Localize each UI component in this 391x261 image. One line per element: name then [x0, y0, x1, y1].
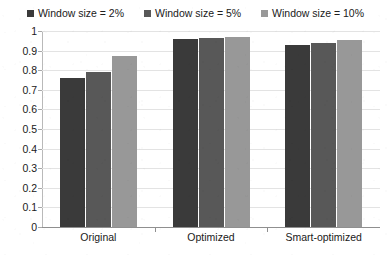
bar-group-smart-optimized [285, 30, 362, 227]
y-axis-tick-label: 0.1 [22, 202, 37, 213]
y-axis-tick [38, 31, 42, 32]
y-axis-tick-label: 0.7 [22, 85, 37, 96]
chart-legend: Window size = 2% Window size = 5% Window… [0, 4, 391, 22]
x-axis-tick [267, 228, 268, 232]
x-axis-label-optimized: Optimized [187, 232, 234, 243]
legend-swatch-window-size-10 [261, 10, 268, 17]
bar-group-optimized [173, 30, 250, 227]
y-axis-tick [38, 188, 42, 189]
gridline [42, 227, 380, 228]
y-axis-tick [38, 149, 42, 150]
y-axis-tick [38, 109, 42, 110]
y-axis-tick [38, 90, 42, 91]
bar-chart: Window size = 2% Window size = 5% Window… [0, 0, 391, 261]
legend-label-window-size-10: Window size = 10% [272, 8, 364, 19]
y-axis-tick-label: 0.5 [22, 124, 37, 135]
bar-original-series-2 [86, 72, 111, 227]
bar-optimized-series-2 [199, 38, 224, 227]
bar-original-series-3 [112, 56, 137, 227]
plot-area: 00.10.20.30.40.50.60.70.80.91 [42, 31, 380, 228]
y-axis-tick-label: 0.3 [22, 163, 37, 174]
y-axis-tick [38, 51, 42, 52]
bar-optimized-series-1 [173, 39, 198, 227]
y-axis-tick-label: 0.2 [22, 183, 37, 194]
legend-item-window-size-10: Window size = 10% [261, 8, 364, 19]
legend-swatch-window-size-2 [27, 10, 34, 17]
bar-smart-optimized-series-3 [337, 40, 362, 227]
x-axis-label-smart-optimized: Smart-optimized [285, 232, 361, 243]
y-axis-tick-label: 0.4 [22, 143, 37, 154]
y-axis-tick-label: 0 [31, 222, 37, 233]
bar-optimized-series-3 [225, 37, 250, 227]
y-axis-tick-label: 0.9 [22, 45, 37, 56]
x-axis-tick [155, 228, 156, 232]
legend-label-window-size-5: Window size = 5% [155, 8, 241, 19]
y-axis-tick [38, 70, 42, 71]
bar-smart-optimized-series-1 [285, 45, 310, 227]
y-axis-tick [38, 168, 42, 169]
bar-smart-optimized-series-2 [311, 43, 336, 227]
y-axis-tick [38, 227, 42, 228]
legend-item-window-size-2: Window size = 2% [27, 8, 124, 19]
legend-item-window-size-5: Window size = 5% [144, 8, 241, 19]
y-axis-tick-label: 0.8 [22, 65, 37, 76]
x-axis-label-original: Original [80, 232, 116, 243]
legend-label-window-size-2: Window size = 2% [38, 8, 124, 19]
y-axis-tick-label: 0.6 [22, 104, 37, 115]
legend-swatch-window-size-5 [144, 10, 151, 17]
bar-original-series-1 [60, 78, 85, 227]
y-axis-tick-label: 1 [31, 26, 37, 37]
y-axis-tick [38, 129, 42, 130]
y-axis-tick [38, 207, 42, 208]
bar-group-original [60, 30, 137, 227]
